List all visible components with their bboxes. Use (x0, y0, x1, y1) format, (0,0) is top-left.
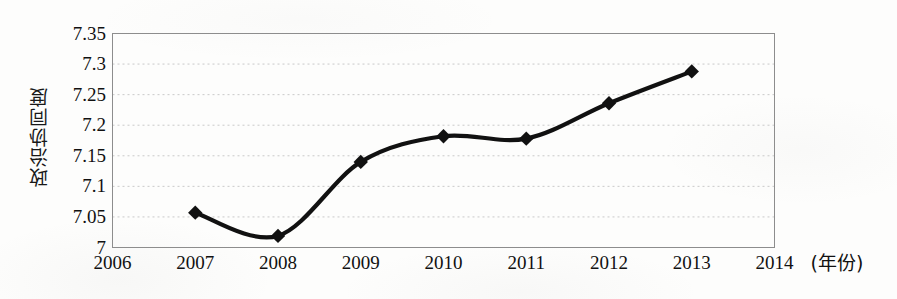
data-point-marker (271, 229, 285, 243)
data-point-marker (685, 64, 699, 78)
chart-figure: 政治协同度 77.057.17.157.27.257.37.35 2006200… (0, 0, 897, 299)
data-series-line (195, 71, 692, 237)
data-point-marker (436, 129, 450, 143)
data-point-marker (188, 205, 202, 219)
data-point-marker-group (188, 64, 699, 243)
data-point-marker (602, 96, 616, 110)
data-point-marker (519, 131, 533, 145)
plot-area (0, 0, 897, 299)
